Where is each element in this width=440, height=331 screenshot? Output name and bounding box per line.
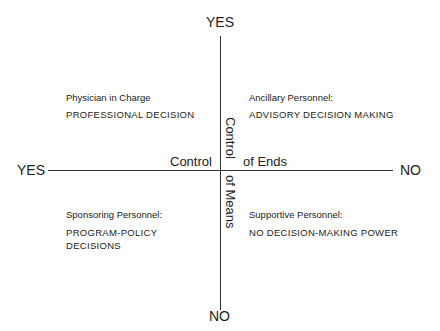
quadrant-decision-line2: DECISIONS bbox=[66, 239, 121, 252]
horizontal-axis-title-left: Control bbox=[170, 154, 212, 169]
horizontal-axis-right-label: NO bbox=[400, 162, 421, 178]
quadrant-decision: NO DECISION-MAKING POWER bbox=[249, 226, 398, 239]
vertical-axis-title-lower: of Means bbox=[223, 175, 238, 228]
quadrant-decision: PROFESSIONAL DECISION bbox=[66, 108, 194, 121]
quadrant-role: Physician in Charge bbox=[66, 92, 151, 103]
vertical-axis-top-label: YES bbox=[206, 14, 234, 30]
horizontal-axis-left-label: YES bbox=[17, 162, 45, 178]
quadrant-role: Supportive Personnel: bbox=[249, 209, 342, 220]
horizontal-axis-title-right: of Ends bbox=[243, 154, 287, 169]
vertical-axis-bottom-label: NO bbox=[209, 308, 230, 324]
vertical-axis-title-upper: Control bbox=[223, 117, 238, 159]
vertical-axis-line bbox=[220, 36, 221, 310]
quadrant-decision: ADVISORY DECISION MAKING bbox=[249, 108, 394, 121]
horizontal-axis-line bbox=[48, 170, 393, 171]
quadrant-role: Sponsoring Personnel: bbox=[66, 209, 162, 220]
quadrant-decision-line1: PROGRAM-POLICY bbox=[66, 226, 157, 239]
quadrant-role: Ancillary Personnel: bbox=[249, 92, 333, 103]
